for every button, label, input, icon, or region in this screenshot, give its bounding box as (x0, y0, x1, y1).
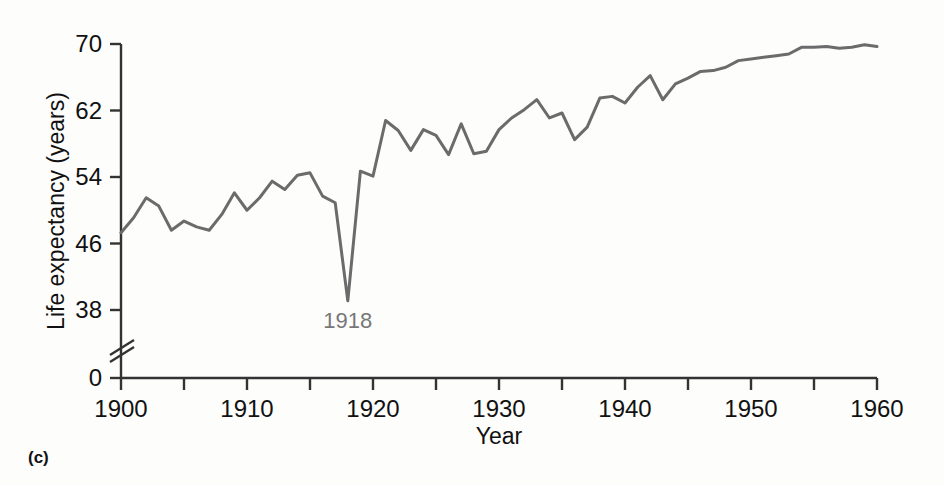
data-series-line (121, 45, 877, 301)
y-axis-ticks (110, 44, 121, 378)
chart-annotations: 1918 (323, 308, 372, 333)
x-tick-label-1920: 1920 (346, 395, 399, 422)
x-axis-major-ticks (121, 378, 877, 390)
y-tick-label-70: 70 (75, 30, 102, 57)
x-tick-label-1960: 1960 (850, 395, 903, 422)
y-tick-label-38: 38 (75, 296, 102, 323)
life-expectancy-line-chart: 03846546270 1900191019201930194019501960… (0, 0, 944, 485)
x-tick-label-1950: 1950 (724, 395, 777, 422)
panel-label-c: (c) (28, 448, 49, 468)
y-tick-label-54: 54 (75, 163, 102, 190)
x-tick-label-1900: 1900 (94, 395, 147, 422)
x-tick-label-1910: 1910 (220, 395, 273, 422)
figure-panel: 03846546270 1900191019201930194019501960… (0, 0, 944, 485)
y-tick-label-0: 0 (89, 364, 102, 391)
y-axis-tick-labels: 03846546270 (75, 30, 102, 391)
x-tick-label-1930: 1930 (472, 395, 525, 422)
x-axis-tick-labels: 1900191019201930194019501960 (94, 395, 903, 422)
x-axis-title: Year (476, 423, 523, 449)
annotation-1918: 1918 (323, 308, 372, 333)
y-axis-title: Life expectancy (years) (43, 92, 69, 330)
x-tick-label-1940: 1940 (598, 395, 651, 422)
y-tick-label-46: 46 (75, 230, 102, 257)
y-tick-label-62: 62 (75, 97, 102, 124)
